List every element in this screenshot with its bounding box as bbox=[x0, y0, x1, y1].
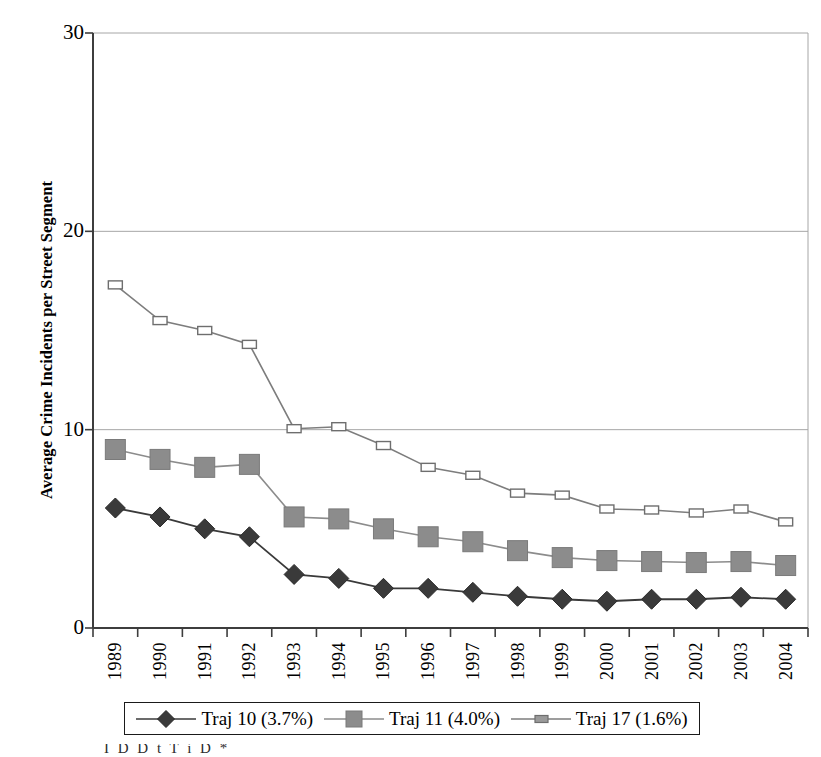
data-point-marker bbox=[195, 519, 215, 539]
x-tick-label: 2001 bbox=[642, 642, 663, 680]
data-point-marker bbox=[597, 551, 617, 571]
x-tick-label: 1998 bbox=[508, 642, 529, 680]
series-2 bbox=[105, 440, 795, 576]
data-point-marker bbox=[329, 509, 349, 529]
x-tick-label: 1994 bbox=[329, 642, 350, 680]
crime-trajectory-chart: Average Crime Incidents per Street Segme… bbox=[0, 0, 821, 757]
data-point-marker bbox=[686, 553, 706, 573]
data-point-marker bbox=[731, 552, 751, 572]
series-line bbox=[115, 285, 785, 522]
data-point-marker bbox=[195, 457, 215, 477]
data-point-marker bbox=[597, 591, 617, 611]
data-point-marker bbox=[153, 317, 167, 325]
data-point-marker bbox=[239, 454, 259, 474]
series-3 bbox=[108, 281, 792, 526]
caption-text: I D D t T i D * bbox=[104, 744, 504, 757]
chart-legend: Traj 10 (3.7%) Traj 11 (4.0%) Traj 17 (1… bbox=[124, 702, 700, 735]
x-tick-label: 1999 bbox=[552, 642, 573, 680]
series-line bbox=[115, 508, 785, 601]
data-point-marker bbox=[508, 586, 528, 606]
legend-item-traj10[interactable]: Traj 10 (3.7%) bbox=[136, 708, 313, 730]
data-point-marker bbox=[105, 498, 125, 518]
x-tick-label: 1991 bbox=[195, 642, 216, 680]
data-point-marker bbox=[332, 423, 346, 431]
x-tick-label: 1997 bbox=[463, 642, 484, 680]
data-point-marker bbox=[689, 509, 703, 517]
x-tick-label: 2002 bbox=[686, 642, 707, 680]
data-point-marker bbox=[776, 556, 796, 576]
data-point-marker bbox=[642, 589, 662, 609]
data-point-marker bbox=[376, 442, 390, 450]
data-point-marker bbox=[645, 506, 659, 514]
data-point-marker bbox=[555, 491, 569, 499]
data-point-marker bbox=[150, 507, 170, 527]
data-point-marker bbox=[642, 552, 662, 572]
data-point-marker bbox=[466, 471, 480, 479]
x-tick-label: 1992 bbox=[239, 642, 260, 680]
data-point-marker bbox=[418, 578, 438, 598]
legend-item-traj17[interactable]: Traj 17 (1.6%) bbox=[511, 708, 688, 730]
series-line bbox=[115, 450, 785, 566]
data-point-marker bbox=[287, 425, 301, 433]
data-point-marker bbox=[418, 527, 438, 547]
x-tick-label: 1995 bbox=[373, 642, 394, 680]
x-tick-label: 2003 bbox=[731, 642, 752, 680]
data-point-marker bbox=[198, 327, 212, 335]
data-point-marker bbox=[329, 568, 349, 588]
data-point-marker bbox=[511, 489, 525, 497]
data-point-marker bbox=[552, 589, 572, 609]
legend-item-traj11[interactable]: Traj 11 (4.0%) bbox=[324, 708, 500, 730]
data-point-marker bbox=[242, 340, 256, 348]
caption-clipped: I D D t T i D * bbox=[104, 744, 504, 757]
x-tick-label: 1996 bbox=[418, 642, 439, 680]
open-square-icon bbox=[511, 708, 571, 730]
data-point-marker bbox=[284, 507, 304, 527]
x-tick-label: 2000 bbox=[597, 642, 618, 680]
filled-square-icon bbox=[324, 708, 384, 730]
filled-diamond-icon bbox=[136, 708, 196, 730]
legend-label-traj17: Traj 17 (1.6%) bbox=[576, 708, 688, 730]
data-point-marker bbox=[108, 281, 122, 289]
data-point-marker bbox=[600, 505, 614, 513]
data-point-marker bbox=[731, 587, 751, 607]
data-point-marker bbox=[734, 505, 748, 513]
x-tick-label: 1990 bbox=[150, 642, 171, 680]
x-tick-label: 2004 bbox=[776, 642, 797, 680]
data-point-marker bbox=[105, 440, 125, 460]
data-point-marker bbox=[779, 518, 793, 526]
data-point-marker bbox=[373, 519, 393, 539]
data-point-marker bbox=[150, 449, 170, 469]
data-point-marker bbox=[776, 589, 796, 609]
data-point-marker bbox=[421, 463, 435, 471]
data-point-marker bbox=[686, 589, 706, 609]
x-tick-label: 1989 bbox=[105, 642, 126, 680]
data-point-marker bbox=[552, 548, 572, 568]
legend-label-traj11: Traj 11 (4.0%) bbox=[389, 708, 500, 730]
data-point-marker bbox=[463, 582, 483, 602]
data-point-marker bbox=[463, 532, 483, 552]
legend-label-traj10: Traj 10 (3.7%) bbox=[201, 708, 313, 730]
data-point-marker bbox=[373, 578, 393, 598]
x-tick-label: 1993 bbox=[284, 642, 305, 680]
data-point-marker bbox=[508, 541, 528, 561]
